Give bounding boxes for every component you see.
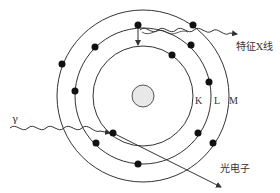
electron-l-4 [206, 79, 213, 86]
electron-l-3 [188, 42, 195, 49]
photoelectron-label: 光电子 [220, 164, 250, 174]
shell-k-label: K [195, 96, 202, 106]
electron-m-1 [59, 61, 66, 68]
electron-k-2 [110, 130, 117, 137]
electron-l-5 [72, 88, 79, 95]
electron-m-2 [190, 22, 197, 29]
electron-l-2 [92, 44, 99, 51]
electron-l-8 [135, 161, 142, 168]
shell-m-label: M [229, 96, 238, 106]
electron-l-6 [93, 140, 100, 147]
electron-m-3 [210, 140, 217, 147]
gamma-ray-wave [10, 126, 110, 133]
electron-l-7 [195, 130, 202, 137]
shell-l-label: L [214, 96, 220, 106]
electron-l-1 [135, 22, 142, 29]
characteristic-xray-label: 特征X线 [236, 42, 273, 52]
electron-k-1 [169, 52, 176, 59]
gamma-label: γ [12, 114, 18, 124]
nucleus [132, 85, 154, 107]
